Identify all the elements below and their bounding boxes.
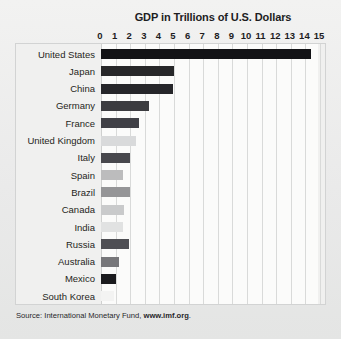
bar-track (101, 201, 318, 218)
bar-track (101, 167, 318, 184)
bar-track (101, 46, 318, 63)
bar-italy (101, 153, 130, 163)
source-note: Source: International Monetary Fund, www… (16, 311, 191, 320)
bar-track (101, 270, 318, 287)
bar-track (101, 80, 318, 97)
x-tick-label-9: 9 (229, 29, 234, 42)
source-prefix: Source: International Monetary Fund, (16, 311, 143, 320)
x-axis-tick-labels: 0123456789101112131415 (100, 29, 319, 42)
bar-canada (101, 205, 124, 215)
bar-track (101, 149, 318, 166)
chart-row: South Korea (16, 288, 325, 305)
category-label-india: India (16, 219, 95, 236)
bar-mexico (101, 274, 116, 284)
x-tick-label-2: 2 (127, 29, 132, 42)
category-label-south-korea: South Korea (16, 288, 95, 305)
chart-row: Spain (16, 167, 325, 184)
bar-track (101, 132, 318, 149)
category-label-canada: Canada (16, 201, 95, 218)
x-tick-label-7: 7 (200, 29, 205, 42)
bar-south-korea (101, 291, 114, 301)
chart-row: United Kingdom (16, 132, 325, 149)
x-tick-label-0: 0 (97, 29, 102, 42)
x-tick-label-11: 11 (256, 29, 266, 42)
bar-track (101, 236, 318, 253)
x-tick-label-8: 8 (214, 29, 219, 42)
category-label-brazil: Brazil (16, 184, 95, 201)
chart-title: GDP in Trillions of U.S. Dollars (100, 11, 326, 23)
category-label-mexico: Mexico (16, 270, 95, 287)
bar-united-states (101, 49, 311, 59)
plot-frame: United StatesJapanChinaGermanyFranceUnit… (15, 43, 326, 305)
x-tick-label-1: 1 (112, 29, 117, 42)
bar-track (101, 115, 318, 132)
bar-japan (101, 66, 174, 76)
bar-germany (101, 101, 149, 111)
bar-united-kingdom (101, 136, 136, 146)
bar-track (101, 253, 318, 270)
bar-track (101, 97, 318, 114)
category-label-italy: Italy (16, 149, 95, 166)
bar-track (101, 219, 318, 236)
x-tick-label-5: 5 (170, 29, 175, 42)
chart-row: China (16, 80, 325, 97)
category-label-china: China (16, 80, 95, 97)
bar-spain (101, 170, 123, 180)
category-label-france: France (16, 115, 95, 132)
x-tick-label-3: 3 (141, 29, 146, 42)
bar-track (101, 288, 318, 305)
bar-australia (101, 257, 119, 267)
bar-brazil (101, 187, 130, 197)
category-label-russia: Russia (16, 236, 95, 253)
x-tick-label-10: 10 (241, 29, 252, 42)
chart-row: Russia (16, 236, 325, 253)
x-tick-label-4: 4 (156, 29, 161, 42)
gdp-bar-chart-figure: GDP in Trillions of U.S. Dollars 0123456… (0, 0, 341, 339)
source-link[interactable]: www.imf.org (143, 311, 188, 320)
x-tick-label-15: 15 (314, 29, 325, 42)
chart-row: Japan (16, 63, 325, 80)
chart-row: Germany (16, 97, 325, 114)
bar-track (101, 184, 318, 201)
chart-row: France (16, 115, 325, 132)
x-tick-label-14: 14 (299, 29, 310, 42)
chart-row: Australia (16, 253, 325, 270)
bar-france (101, 118, 139, 128)
x-tick-label-6: 6 (185, 29, 190, 42)
bar-india (101, 222, 123, 232)
category-label-spain: Spain (16, 167, 95, 184)
category-label-united-kingdom: United Kingdom (16, 132, 95, 149)
category-label-germany: Germany (16, 97, 95, 114)
bar-track (101, 63, 318, 80)
category-label-japan: Japan (16, 63, 95, 80)
chart-row: United States (16, 46, 325, 63)
bar-china (101, 84, 173, 94)
x-tick-label-12: 12 (270, 29, 281, 42)
chart-row: Canada (16, 201, 325, 218)
chart-row: India (16, 219, 325, 236)
category-label-united-states: United States (16, 46, 95, 63)
chart-row: Brazil (16, 184, 325, 201)
category-label-australia: Australia (16, 253, 95, 270)
x-tick-label-13: 13 (285, 29, 296, 42)
source-suffix: . (189, 311, 191, 320)
chart-row: Italy (16, 149, 325, 166)
chart-row: Mexico (16, 270, 325, 287)
bar-russia (101, 239, 129, 249)
